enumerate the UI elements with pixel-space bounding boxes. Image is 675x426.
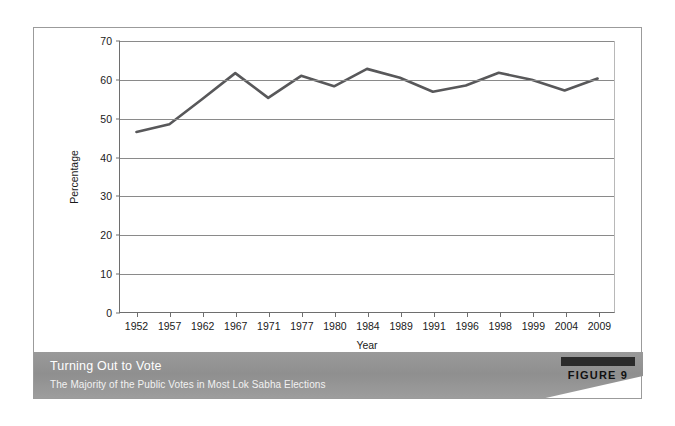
caption-text-group: Turning Out to Vote The Majority of the … xyxy=(50,357,326,393)
y-tick-label: 40 xyxy=(100,152,112,164)
x-tick-label: 1967 xyxy=(224,320,247,332)
x-tick-mark xyxy=(335,312,336,317)
y-tick-mark xyxy=(116,235,120,236)
x-tick-label: 1998 xyxy=(489,320,512,332)
x-tick-mark xyxy=(434,312,435,317)
x-tick-label: 1999 xyxy=(522,320,545,332)
caption-subtitle: The Majority of the Public Votes in Most… xyxy=(50,377,326,393)
x-tick-mark xyxy=(533,312,534,317)
x-tick-mark xyxy=(302,312,303,317)
x-tick-mark xyxy=(137,312,138,317)
y-tick-label: 70 xyxy=(100,35,112,47)
y-tick-mark xyxy=(116,196,120,197)
x-tick-mark xyxy=(269,312,270,317)
y-tick-mark xyxy=(116,79,120,80)
line-series xyxy=(120,41,614,312)
x-tick-label: 1957 xyxy=(158,320,181,332)
x-tick-label: 1984 xyxy=(356,320,379,332)
x-tick-label: 1996 xyxy=(456,320,479,332)
y-tick-label: 60 xyxy=(100,74,112,86)
y-tick-mark xyxy=(116,313,120,314)
y-axis-title: Percentage xyxy=(68,150,80,204)
y-tick-label: 30 xyxy=(100,190,112,202)
gridline xyxy=(120,158,614,159)
x-tick-mark xyxy=(170,312,171,317)
x-tick-label: 1991 xyxy=(422,320,445,332)
figure-container: Percentage Year 010203040506070195219571… xyxy=(33,27,642,399)
y-tick-label: 0 xyxy=(106,307,112,319)
x-tick-label: 1971 xyxy=(257,320,280,332)
x-tick-mark xyxy=(566,312,567,317)
x-tick-mark xyxy=(500,312,501,317)
gridline xyxy=(120,80,614,81)
chart-axes: 0102030405060701952195719621967197119771… xyxy=(119,41,615,313)
x-tick-label: 2009 xyxy=(588,320,611,332)
y-tick-mark xyxy=(116,157,120,158)
x-tick-label: 1952 xyxy=(125,320,148,332)
gridline xyxy=(120,274,614,275)
caption-banner: Turning Out to Vote The Majority of the … xyxy=(34,352,643,398)
y-tick-mark xyxy=(116,118,120,119)
gridline xyxy=(120,196,614,197)
gridline xyxy=(120,119,614,120)
x-tick-label: 1962 xyxy=(191,320,214,332)
x-axis-title: Year xyxy=(356,339,377,351)
gridline xyxy=(120,235,614,236)
series-line-voter-turnout xyxy=(136,69,597,132)
x-tick-mark xyxy=(203,312,204,317)
gridline xyxy=(120,41,614,42)
y-tick-mark xyxy=(116,41,120,42)
x-tick-mark xyxy=(467,312,468,317)
caption-title: Turning Out to Vote xyxy=(50,357,326,375)
x-tick-mark xyxy=(599,312,600,317)
x-tick-mark xyxy=(401,312,402,317)
x-tick-label: 1977 xyxy=(290,320,313,332)
x-tick-label: 1989 xyxy=(389,320,412,332)
y-tick-mark xyxy=(116,274,120,275)
y-tick-label: 10 xyxy=(100,268,112,280)
y-tick-label: 20 xyxy=(100,229,112,241)
figure-badge: FIGURE 9 xyxy=(561,357,635,383)
x-tick-label: 2004 xyxy=(555,320,578,332)
figure-badge-bar xyxy=(561,357,635,366)
chart-plot-area: Percentage Year 010203040506070195219571… xyxy=(34,28,643,358)
figure-badge-label: FIGURE 9 xyxy=(561,366,635,383)
y-tick-label: 50 xyxy=(100,113,112,125)
x-tick-mark xyxy=(236,312,237,317)
x-tick-label: 1980 xyxy=(323,320,346,332)
x-tick-mark xyxy=(368,312,369,317)
